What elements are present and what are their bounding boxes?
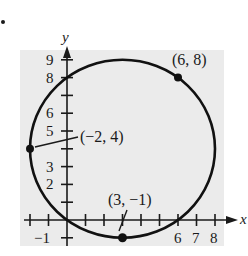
x-tick-label-7: 7 [192,230,200,246]
problem-marker [1,20,5,24]
y-tick-label-2: 2 [46,176,54,192]
y-tick-label-8: 8 [46,70,54,86]
circle-graph: y x 9 8 6 5 3 2 −1 6 7 8 (6, 8) (−2, 4) … [0,0,248,256]
x-axis-arrow-icon [226,216,238,224]
point-neg2-4 [26,145,34,153]
point-3-neg1 [118,233,127,242]
y-tick-label-5: 5 [46,123,54,139]
y-tick-label-3: 3 [46,159,54,175]
y-tick-label-6: 6 [46,105,54,121]
y-axis-label: y [60,29,69,45]
point-label-neg2-4: (−2, 4) [80,128,124,146]
x-tick-label-6: 6 [174,230,182,246]
point-label-3-neg1: (3, −1) [108,191,152,209]
x-axis-label: x [239,211,247,227]
y-tick-label-9: 9 [46,52,54,68]
point-label-6-8: (6, 8) [172,51,207,69]
x-tick-label-neg1: −1 [34,230,50,246]
x-tick-label-8: 8 [210,230,218,246]
point-6-8 [174,74,182,82]
